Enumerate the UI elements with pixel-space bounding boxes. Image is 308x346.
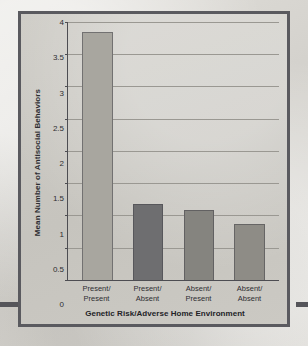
bar: [234, 224, 264, 280]
plot-column: Present/PresentPresent/AbsentAbsent/Pres…: [67, 22, 279, 304]
category-label-line1: Absent/: [186, 284, 211, 293]
bar: [82, 32, 112, 280]
y-axis-title-text: Mean Number of Antisocial Behaviors: [33, 89, 42, 236]
y-axis-tick-label: 2: [60, 159, 64, 168]
x-axis-category-label: Present/Absent: [122, 284, 173, 304]
x-axis-category-label: Absent/Present: [173, 284, 224, 304]
category-label-line2: Absent: [122, 294, 173, 304]
y-axis-tick-label: 1.5: [53, 194, 64, 203]
x-axis-category-label: Present/Present: [71, 284, 122, 304]
y-axis-tick-label: 0.5: [53, 264, 64, 273]
figure-inner: Mean Number of Antisocial Behaviors 00.5…: [21, 14, 287, 324]
y-axis-title: Mean Number of Antisocial Behaviors: [29, 22, 45, 304]
x-axis-category-labels: Present/PresentPresent/AbsentAbsent/Pres…: [67, 281, 279, 304]
x-axis-category-label: Absent/Absent: [224, 284, 275, 304]
bars-layer: [68, 22, 279, 280]
bar-slot: [174, 22, 225, 280]
category-label-line1: Present/: [134, 284, 162, 293]
category-label-line1: Absent/: [237, 284, 262, 293]
figure-frame: Mean Number of Antisocial Behaviors 00.5…: [18, 11, 290, 327]
category-label-line2: Present: [173, 294, 224, 304]
bar-slot: [224, 22, 275, 280]
category-label-line2: Absent: [224, 294, 275, 304]
y-axis-tick-label: 4: [60, 18, 64, 27]
y-axis-tick-label: 1: [60, 229, 64, 238]
bar: [133, 204, 163, 279]
y-axis-tick-label: 3: [60, 88, 64, 97]
bar-slot: [72, 22, 123, 280]
y-axis-tick-mark: [65, 280, 68, 281]
page-rule-right: [296, 302, 308, 307]
y-axis-tick-labels: 00.511.522.533.54: [45, 22, 67, 304]
page-rule-left: [0, 302, 20, 307]
y-axis-tick-label: 0: [60, 300, 64, 309]
category-label-line1: Present/: [83, 284, 111, 293]
plot-area: [67, 22, 279, 281]
y-axis-tick-label: 2.5: [53, 123, 64, 132]
y-axis-tick-label: 3.5: [53, 53, 64, 62]
bar: [184, 210, 214, 280]
category-label-line2: Present: [71, 294, 122, 304]
bar-slot: [123, 22, 174, 280]
x-axis-title: Genetic Risk/Adverse Home Environment: [29, 304, 279, 320]
chart-body: Mean Number of Antisocial Behaviors 00.5…: [29, 22, 279, 304]
